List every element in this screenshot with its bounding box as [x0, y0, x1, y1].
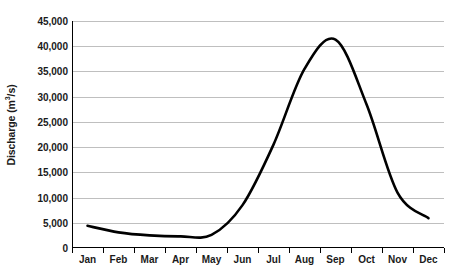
x-axis-tick-label: Feb [110, 254, 128, 265]
x-axis-tick [227, 248, 228, 253]
y-axis-tick-label: 0 [62, 243, 68, 254]
y-axis-title-main: Discharge (m [5, 100, 17, 165]
y-axis-tick-label: 25,000 [37, 116, 68, 127]
x-axis-tick [289, 248, 290, 253]
y-axis-tick-label: 20,000 [37, 142, 68, 153]
y-axis-tick-label: 40,000 [37, 41, 68, 52]
x-axis-tick [444, 248, 445, 253]
x-axis-tick [134, 248, 135, 253]
x-axis-tick [382, 248, 383, 253]
x-axis-tick-label: Nov [388, 254, 407, 265]
x-axis-tick-label: May [202, 254, 221, 265]
data-series-layer [72, 21, 444, 248]
x-axis-tick-label: Jul [266, 254, 280, 265]
x-axis-tick-label: Jan [79, 254, 96, 265]
y-axis-title-superscript: 3 [5, 96, 12, 100]
x-axis-tick [196, 248, 197, 253]
discharge-series-line [88, 39, 429, 238]
y-axis-tick-label: 35,000 [37, 66, 68, 77]
x-axis-tick [103, 248, 104, 253]
y-axis-tick-label: 30,000 [37, 91, 68, 102]
x-axis-tick [413, 248, 414, 253]
discharge-line-chart: Discharge (m3/s) 05,00010,00015,00020,00… [0, 0, 451, 280]
y-axis-tick-label: 10,000 [37, 192, 68, 203]
y-axis-tick-labels: 05,00010,00015,00020,00025,00030,00035,0… [22, 0, 72, 260]
x-axis-tick [72, 248, 73, 253]
x-axis-tick-label: Aug [295, 254, 314, 265]
y-axis-tick-label: 5,000 [43, 217, 68, 228]
x-axis-tick-label: Dec [419, 254, 437, 265]
x-axis-tick [351, 248, 352, 253]
y-axis-tick-label: 45,000 [37, 16, 68, 27]
x-axis-tick [320, 248, 321, 253]
x-axis-tick-label: Mar [141, 254, 159, 265]
y-axis-tick-label: 15,000 [37, 167, 68, 178]
y-axis-title-label: Discharge (m3/s) [5, 84, 17, 165]
x-axis-tick [165, 248, 166, 253]
y-axis-title: Discharge (m3/s) [0, 0, 22, 250]
x-axis-tick-label: Sep [326, 254, 344, 265]
x-axis-tick-label: Oct [358, 254, 375, 265]
x-axis-tick [258, 248, 259, 253]
plot-area [72, 21, 444, 248]
x-axis-tick-labels: JanFebMarAprMayJunJulAugSepOctNovDec [72, 254, 444, 276]
x-axis-tick-label: Jun [234, 254, 252, 265]
x-axis-tick-label: Apr [172, 254, 189, 265]
y-axis-title-tail: /s) [5, 84, 17, 96]
